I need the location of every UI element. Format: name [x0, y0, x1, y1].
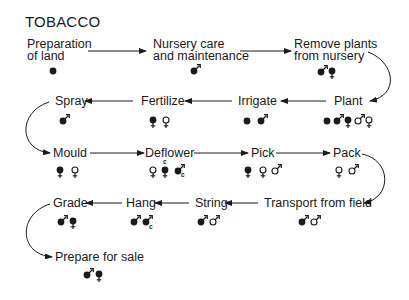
symbols-hang: c [131, 216, 153, 230]
symbols-transport [299, 216, 321, 226]
child-marker: c [181, 171, 185, 178]
male-open-icon [349, 165, 358, 174]
female-filled-icon [150, 117, 157, 128]
male-filled-icon [318, 66, 328, 76]
female-filled-icon [96, 271, 103, 282]
female-open-icon [150, 167, 156, 178]
female-filled-icon [57, 167, 64, 178]
symbols-prepare-for-sale [84, 269, 103, 282]
female-open-icon [336, 167, 342, 178]
household-dot-icon [50, 68, 57, 75]
male-filled-icon [60, 115, 70, 125]
female-filled-icon [345, 117, 352, 128]
symbols-remove-plants [318, 66, 336, 79]
child-marker: c [163, 158, 167, 165]
male-filled-icon [58, 216, 68, 226]
symbols-pick [245, 165, 282, 178]
female-filled-icon [329, 68, 336, 79]
male-filled-icon [198, 216, 208, 226]
male-filled-icon [258, 115, 268, 125]
symbols-mould [57, 167, 78, 178]
household-dot-icon [324, 118, 331, 125]
symbols-plant [324, 115, 372, 128]
male-open-icon [311, 216, 320, 225]
symbols-nursery [191, 65, 201, 75]
symbols-irrigate [244, 115, 268, 125]
female-open-icon [366, 117, 372, 128]
male-filled-icon [334, 115, 344, 125]
male-open-icon [210, 216, 219, 225]
female-open-icon [163, 117, 169, 128]
symbols-spray [60, 115, 70, 125]
child-marker: c [149, 223, 153, 230]
female-open-icon [260, 167, 266, 178]
symbols-string [198, 216, 220, 226]
female-filled-child-icon [162, 167, 169, 178]
symbols-grade [58, 216, 77, 229]
female-open-icon [72, 167, 78, 178]
male-filled-icon [299, 216, 309, 226]
symbols-deflower: c c [150, 158, 185, 178]
female-filled-icon [245, 167, 252, 178]
male-open-icon [355, 115, 364, 124]
female-filled-icon [70, 218, 77, 229]
male-filled-icon [131, 216, 141, 226]
symbols-preparation [50, 68, 57, 75]
worker-symbols: c c c [0, 0, 409, 300]
male-open-icon [272, 165, 281, 174]
symbols-pack [336, 165, 358, 178]
household-dot-icon [244, 118, 251, 125]
male-filled-icon [84, 269, 94, 279]
symbols-fertilize [150, 117, 169, 128]
male-filled-icon [191, 65, 201, 75]
